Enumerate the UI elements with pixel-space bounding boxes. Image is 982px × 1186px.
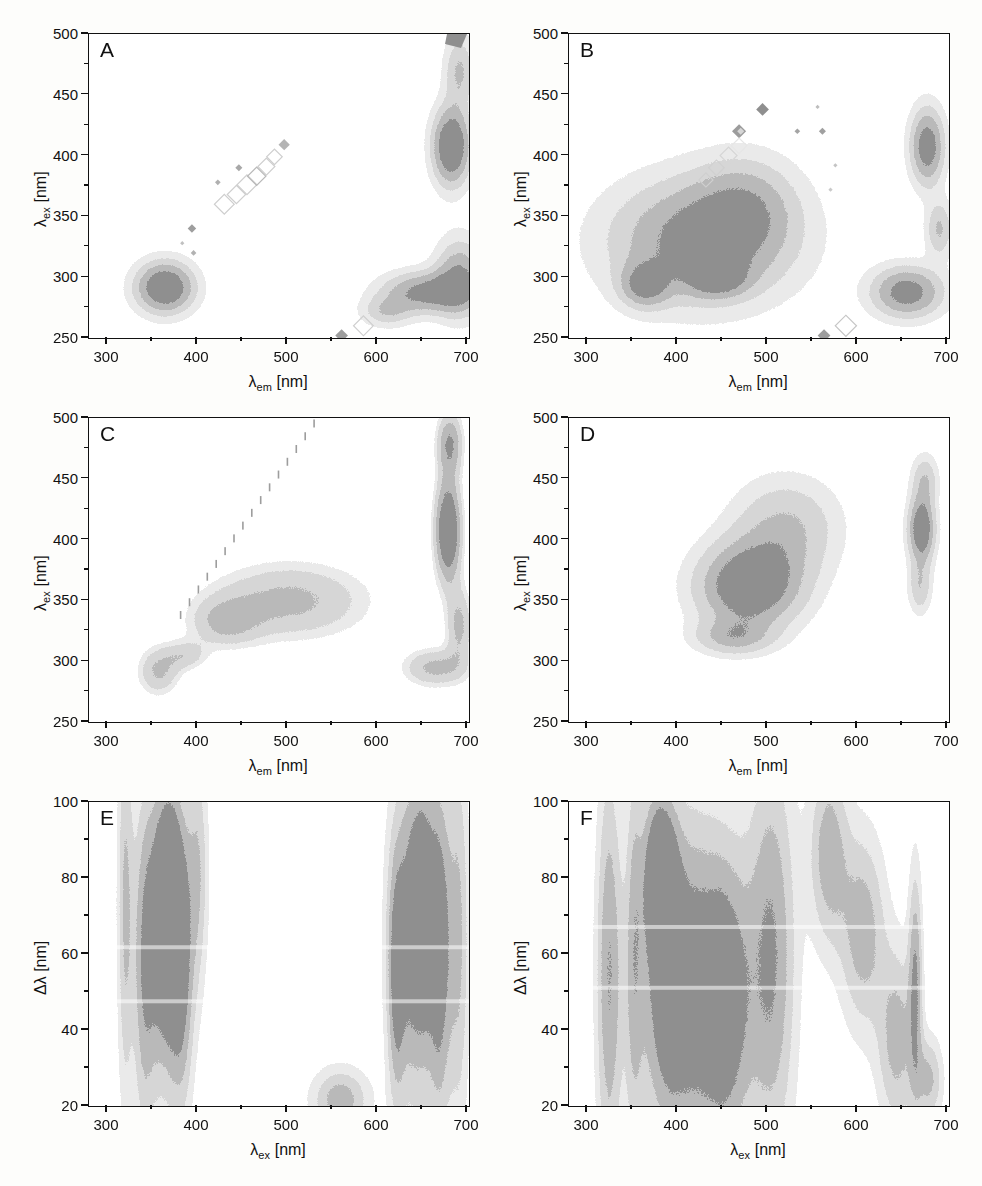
x-tick-label: 700: [933, 348, 958, 365]
y-tick-major: [81, 720, 88, 721]
x-tick-label: 600: [363, 732, 388, 749]
y-tick-major: [81, 336, 88, 337]
x-tick-minor: [720, 337, 721, 341]
x-tick-minor: [330, 721, 331, 725]
y-axis-title: λex [nm]: [512, 555, 532, 611]
y-tick-major: [561, 93, 568, 94]
y-tick-major: [561, 336, 568, 337]
x-tick-label: 300: [573, 732, 598, 749]
x-tick-minor: [630, 1105, 631, 1109]
y-tick-major: [81, 32, 88, 33]
x-tick-major: [465, 1105, 466, 1112]
y-axis-title: Δλ [nm]: [32, 941, 50, 995]
y-tick-label: 300: [38, 652, 78, 669]
x-tick-major: [465, 721, 466, 728]
y-tick-label: 250: [38, 713, 78, 730]
y-tick-label: 400: [38, 146, 78, 163]
panel-letter-F: F: [580, 806, 593, 830]
x-tick-major: [195, 337, 196, 344]
y-tick-label: 80: [518, 869, 558, 886]
y-tick-label: 450: [38, 469, 78, 486]
x-tick-label: 700: [453, 732, 478, 749]
plot-frame-C: [88, 417, 470, 723]
x-tick-label: 400: [663, 1116, 688, 1133]
plot-frame-D: [568, 417, 950, 723]
y-tick-minor: [84, 508, 88, 509]
x-tick-minor: [630, 721, 631, 725]
x-tick-minor: [900, 337, 901, 341]
contour-canvas-D: [569, 418, 949, 722]
y-tick-label: 500: [518, 25, 558, 42]
x-tick-major: [855, 1105, 856, 1112]
y-tick-minor: [564, 838, 568, 839]
y-tick-label: 250: [518, 329, 558, 346]
x-tick-major: [765, 1105, 766, 1112]
x-tick-label: 300: [93, 732, 118, 749]
x-tick-minor: [630, 337, 631, 341]
y-tick-label: 400: [38, 530, 78, 547]
y-tick-major: [561, 599, 568, 600]
panel-letter-E: E: [100, 806, 114, 830]
plot-frame-A: [88, 33, 470, 339]
x-tick-major: [855, 721, 856, 728]
x-tick-major: [105, 721, 106, 728]
x-tick-label: 500: [753, 348, 778, 365]
y-tick-label: 300: [518, 652, 558, 669]
y-tick-major: [561, 952, 568, 953]
x-tick-minor: [240, 1105, 241, 1109]
x-tick-major: [285, 1105, 286, 1112]
y-tick-major: [561, 538, 568, 539]
x-tick-major: [765, 721, 766, 728]
y-tick-major: [561, 1028, 568, 1029]
x-tick-major: [585, 337, 586, 344]
y-tick-major: [81, 538, 88, 539]
x-axis-title: λex [nm]: [250, 1141, 306, 1161]
x-tick-minor: [810, 721, 811, 725]
x-tick-major: [675, 337, 676, 344]
x-tick-label: 600: [843, 732, 868, 749]
x-axis-title: λem [nm]: [248, 757, 307, 777]
contour-canvas-F: [569, 802, 949, 1106]
x-tick-label: 300: [573, 1116, 598, 1133]
y-tick-minor: [84, 447, 88, 448]
y-tick-major: [81, 1028, 88, 1029]
y-tick-minor: [564, 184, 568, 185]
x-tick-minor: [900, 1105, 901, 1109]
x-tick-major: [195, 721, 196, 728]
x-tick-minor: [420, 721, 421, 725]
y-tick-major: [81, 477, 88, 478]
x-tick-major: [105, 337, 106, 344]
plot-frame-F: [568, 801, 950, 1107]
y-tick-major: [561, 477, 568, 478]
panel-letter-A: A: [100, 38, 114, 62]
y-tick-label: 300: [38, 268, 78, 285]
y-tick-minor: [564, 63, 568, 64]
panel-letter-D: D: [580, 422, 595, 446]
x-tick-label: 600: [843, 348, 868, 365]
x-tick-major: [195, 1105, 196, 1112]
x-tick-major: [465, 337, 466, 344]
y-tick-label: 500: [38, 409, 78, 426]
panel-letter-C: C: [100, 422, 115, 446]
y-tick-label: 80: [38, 869, 78, 886]
x-tick-label: 500: [273, 732, 298, 749]
contour-canvas-C: [89, 418, 469, 722]
x-tick-label: 600: [843, 1116, 868, 1133]
x-tick-major: [585, 1105, 586, 1112]
x-tick-label: 500: [753, 732, 778, 749]
y-tick-major: [561, 32, 568, 33]
x-axis-title: λex [nm]: [730, 1141, 786, 1161]
y-tick-label: 250: [518, 713, 558, 730]
x-tick-label: 400: [663, 732, 688, 749]
x-tick-label: 600: [363, 348, 388, 365]
x-tick-label: 500: [273, 348, 298, 365]
x-tick-label: 300: [93, 1116, 118, 1133]
x-tick-major: [945, 1105, 946, 1112]
x-tick-minor: [150, 1105, 151, 1109]
x-tick-minor: [330, 337, 331, 341]
x-tick-label: 300: [93, 348, 118, 365]
x-tick-minor: [810, 337, 811, 341]
x-tick-minor: [150, 721, 151, 725]
y-tick-major: [81, 215, 88, 216]
y-tick-minor: [564, 568, 568, 569]
